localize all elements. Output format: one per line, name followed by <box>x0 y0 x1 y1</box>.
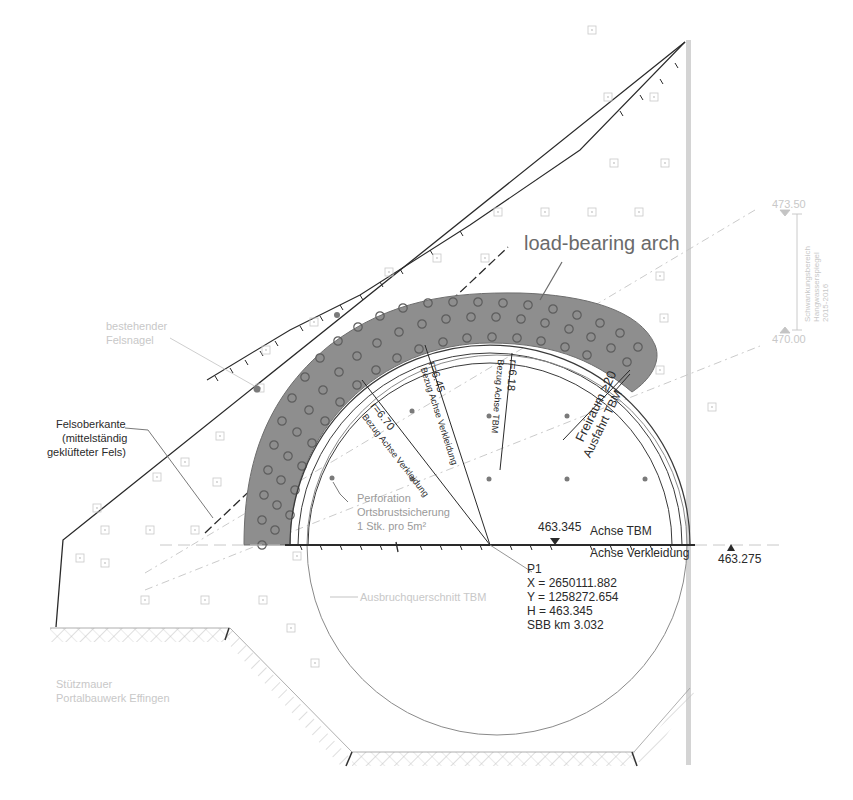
retaining-wall-label-2: Portalbauwerk Effingen <box>56 692 170 705</box>
tbm-elevation-marker-icon <box>550 538 560 545</box>
retaining-wall-label-1: Stützmauer <box>56 678 112 691</box>
fluctuation-zone-label-3: 2015-2016 <box>821 284 830 322</box>
load-bearing-arch-label: load-bearing arch <box>524 232 680 255</box>
p1-name: P1 <box>527 563 542 577</box>
rock-surface-label-2: (mittelständig <box>62 432 127 445</box>
tbm-axis-label: Achse TBM <box>590 525 652 539</box>
rock-surface-label-1: Felsoberkante <box>56 418 126 431</box>
fluctuation-zone-label-1: Schwankungsbereich <box>803 246 812 322</box>
lining-axis-elevation: 463.275 <box>718 553 761 567</box>
p1-railway-km: SBB km 3.032 <box>527 619 604 633</box>
tunnel-cross-section-drawing <box>0 0 853 800</box>
existing-rock-nail-label-2: Felsnagel <box>106 334 154 347</box>
tbm-axis-elevation: 463.345 <box>538 521 581 535</box>
water-level-lower: 470.00 <box>772 333 806 346</box>
existing-rock-nail-label-1: bestehender <box>106 320 167 333</box>
lining-axis-label: Achse Verkleidung <box>590 547 689 561</box>
perforation-label-2: Ortsbrustsicherung <box>357 506 450 519</box>
p1-height: H = 463.345 <box>527 605 593 619</box>
perforation-label-1: Perforation <box>357 492 411 505</box>
perforation-label-3: 1 Stk. pro 5m² <box>357 520 426 533</box>
portal-wall-right <box>686 40 691 765</box>
excavation-profile-label: Ausbruchquerschnitt TBM <box>360 591 486 604</box>
water-level-upper: 473.50 <box>772 198 806 211</box>
p1-x-coordinate: X = 2650111.882 <box>527 577 617 591</box>
p1-y-coordinate: Y = 1258272.654 <box>527 591 619 605</box>
rock-surface-label-3: geklüfteter Fels) <box>47 446 126 459</box>
fluctuation-zone-label-2: Hangwasserspiegel <box>812 252 821 322</box>
water-level-bracket <box>780 210 802 333</box>
